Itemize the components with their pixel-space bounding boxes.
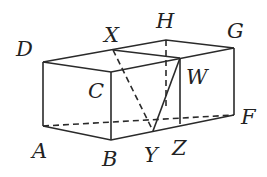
- top-face-back: [43, 40, 234, 62]
- label-A: A: [30, 139, 47, 163]
- cuboid-diagram: D X H G C W F A B Y Z: [0, 0, 267, 177]
- label-H: H: [155, 9, 175, 33]
- label-X: X: [102, 23, 120, 47]
- label-F: F: [240, 105, 257, 129]
- vertex-labels: D X H G C W F A B Y Z: [15, 9, 257, 171]
- label-C: C: [88, 79, 104, 103]
- label-W: W: [186, 65, 210, 89]
- edge-XY-hidden: [113, 50, 153, 131]
- label-B: B: [101, 147, 117, 171]
- bottom-front: [43, 115, 234, 140]
- label-G: G: [227, 19, 244, 43]
- label-Z: Z: [171, 136, 187, 160]
- label-D: D: [15, 37, 33, 61]
- edge-dc-diag: [113, 50, 180, 58]
- solid-edges: [43, 40, 234, 140]
- label-Y: Y: [144, 143, 160, 167]
